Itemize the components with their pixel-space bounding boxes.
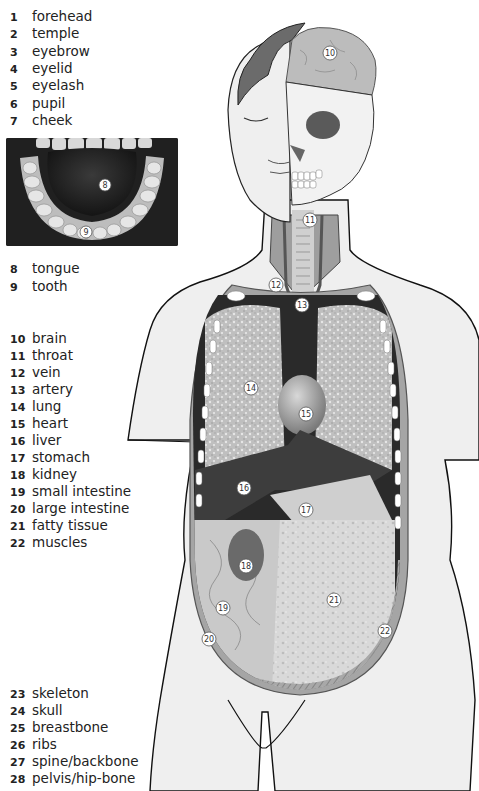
marker-15: 15 — [299, 407, 313, 421]
label-small-intestine: 19small intestine — [10, 483, 131, 501]
svg-text:21: 21 — [329, 596, 339, 605]
svg-text:13: 13 — [297, 301, 307, 310]
label-fatty-tissue: 21fatty tissue — [10, 517, 108, 535]
label-skull: 24skull — [10, 702, 63, 720]
marker-12: 12 — [269, 278, 283, 292]
svg-text:18: 18 — [241, 562, 251, 571]
marker-19: 19 — [216, 601, 230, 615]
marker-18: 18 — [239, 559, 253, 573]
marker-13: 13 — [295, 298, 309, 312]
eye-socket — [306, 111, 340, 139]
label-breastbone: 25breastbone — [10, 719, 108, 737]
label-heart: 15heart — [10, 415, 68, 433]
label-vein: 12vein — [10, 364, 61, 382]
label-skeleton: 23skeleton — [10, 685, 89, 703]
label-artery: 13artery — [10, 381, 73, 399]
label-ribs: 26ribs — [10, 736, 57, 754]
svg-text:20: 20 — [204, 635, 214, 644]
label-spine-backbone: 27spine/backbone — [10, 753, 139, 771]
svg-text:10: 10 — [325, 49, 335, 58]
label-large-intestine: 20large intestine — [10, 500, 129, 518]
marker-22: 22 — [378, 624, 392, 638]
svg-text:19: 19 — [218, 604, 228, 613]
label-kidney: 18kidney — [10, 466, 77, 484]
svg-text:11: 11 — [305, 216, 315, 225]
label-muscles: 22muscles — [10, 534, 87, 552]
label-brain: 10brain — [10, 330, 67, 348]
heart — [278, 375, 326, 435]
svg-text:12: 12 — [271, 281, 281, 290]
marker-10: 10 — [323, 46, 337, 60]
label-stomach: 17stomach — [10, 449, 90, 467]
label-pelvis-hip-bone: 28pelvis/hip-bone — [10, 770, 135, 788]
marker-20: 20 — [202, 632, 216, 646]
svg-text:15: 15 — [301, 410, 311, 419]
label-lung: 14lung — [10, 398, 61, 416]
marker-21: 21 — [327, 593, 341, 607]
marker-16: 16 — [237, 481, 251, 495]
marker-14: 14 — [244, 381, 258, 395]
svg-text:17: 17 — [301, 506, 311, 515]
svg-text:16: 16 — [239, 484, 249, 493]
svg-text:14: 14 — [246, 384, 256, 393]
label-throat: 11throat — [10, 347, 73, 365]
marker-11: 11 — [303, 213, 317, 227]
marker-17: 17 — [299, 503, 313, 517]
label-liver: 16liver — [10, 432, 61, 450]
svg-text:22: 22 — [380, 627, 390, 636]
